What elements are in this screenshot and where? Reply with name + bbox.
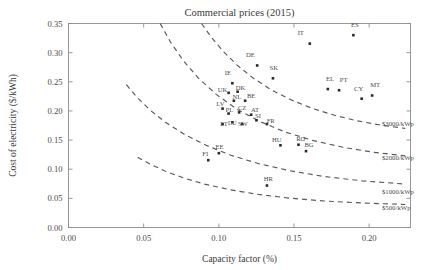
data-point-marker[interactable] [227, 92, 230, 95]
chart-title: Commercial prices (2015) [184, 7, 295, 19]
x-axis-tick-label: 0.00 [61, 233, 76, 243]
iso-cost-curve [202, 24, 406, 129]
data-point-label: FR [267, 117, 276, 124]
data-point-label: IE [225, 69, 231, 76]
y-axis-tick-label: 0.30 [47, 48, 62, 58]
data-point-label: EE [216, 143, 224, 150]
data-point-label: BG [304, 141, 313, 148]
x-axis-tick-label: 0.15 [286, 233, 301, 243]
data-point-marker[interactable] [305, 150, 308, 153]
y-axis-label: Cost of electricity ($/kWh) [8, 74, 19, 177]
y-axis-tick-label: 0.10 [47, 164, 62, 174]
iso-cost-curve-label: $2000/kWp [382, 154, 415, 161]
x-axis-tick-label: 0.20 [362, 233, 377, 243]
data-point-label: PL [226, 106, 234, 113]
data-point-label: CY [354, 85, 363, 92]
data-point-label: NL [232, 93, 241, 100]
data-point-label: UK [218, 86, 228, 93]
y-axis-tick-label: 0.35 [47, 19, 62, 29]
data-point-label: LT [220, 120, 227, 127]
data-point-marker[interactable] [227, 112, 230, 115]
data-point-label: LU [228, 119, 237, 126]
data-point-marker[interactable] [255, 119, 258, 122]
data-point-marker[interactable] [308, 42, 311, 45]
iso-cost-curve-label: $3000/kWp [382, 120, 415, 127]
data-point-marker[interactable] [279, 144, 282, 147]
data-point-label: CZ [238, 104, 246, 111]
data-point-marker[interactable] [244, 99, 247, 102]
data-point-label: SI [255, 112, 261, 119]
iso-cost-curve [126, 85, 405, 184]
data-point-label: SW [238, 120, 249, 127]
data-point-marker[interactable] [338, 89, 341, 92]
data-point-label: LV [216, 100, 224, 107]
data-point-marker[interactable] [297, 143, 300, 146]
iso-cost-curve-label: $500/kWp [382, 204, 411, 211]
data-point-label: IT [298, 29, 304, 36]
data-point-label: DE [246, 51, 255, 58]
iso-cost-curve [160, 24, 405, 156]
data-point-label: ES [351, 21, 359, 28]
y-axis-tick-label: 0.15 [47, 135, 62, 145]
data-point-marker[interactable] [207, 159, 210, 162]
data-point-marker[interactable] [238, 111, 241, 114]
data-point-marker[interactable] [327, 88, 330, 91]
data-point-marker[interactable] [218, 152, 221, 155]
scatter-chart: 0.000.050.100.150.200.000.050.100.150.20… [0, 0, 427, 270]
data-point-marker[interactable] [256, 64, 259, 67]
y-axis-tick-label: 0.05 [47, 193, 62, 203]
data-point-label: EL [326, 75, 334, 82]
data-point-label: HU [272, 136, 282, 143]
data-point-marker[interactable] [360, 97, 363, 100]
y-axis-tick-label: 0.25 [47, 77, 62, 87]
x-axis-tick-label: 0.10 [211, 233, 226, 243]
chart-text-group: 0.000.050.100.150.200.000.050.100.150.20… [8, 7, 415, 265]
chart-figure: 0.000.050.100.150.200.000.050.100.150.20… [0, 0, 427, 270]
y-axis-tick-label: 0.20 [47, 106, 62, 116]
data-point-label: PT [340, 76, 348, 83]
y-axis-tick-label: 0.00 [47, 223, 62, 233]
data-point-label: FI [202, 150, 208, 157]
data-point-label: MT [370, 81, 380, 88]
data-point-label: HR [264, 175, 274, 182]
data-point-marker[interactable] [352, 34, 355, 37]
data-point-marker[interactable] [272, 77, 275, 80]
data-point-marker[interactable] [266, 184, 269, 187]
data-point-label: DK [236, 84, 246, 91]
data-point-label: SK [269, 64, 278, 71]
x-axis-label: Capacity factor (%) [202, 254, 277, 265]
data-point-marker[interactable] [371, 94, 374, 97]
data-point-marker[interactable] [250, 113, 253, 116]
data-point-marker[interactable] [221, 107, 224, 110]
x-axis-tick-label: 0.05 [136, 233, 151, 243]
iso-cost-curve-label: $1000/kWp [382, 188, 415, 195]
data-point-label: BE [247, 92, 255, 99]
data-point-marker[interactable] [231, 82, 234, 85]
